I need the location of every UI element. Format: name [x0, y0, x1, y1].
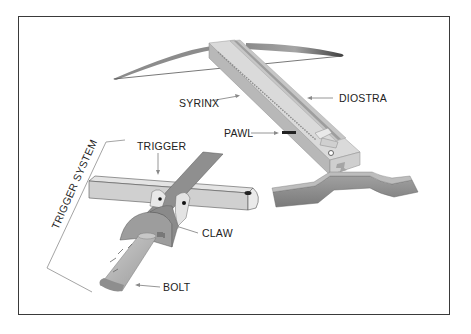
bolt	[100, 233, 157, 291]
label-claw: CLAW	[202, 227, 233, 239]
stock	[209, 40, 360, 175]
label-syrinx: SYRINX	[179, 97, 219, 109]
diagram-canvas: SYRINX DIOSTRA PAWL TRIGGER CLAW BOLT TR…	[0, 0, 471, 334]
stomach-rest	[272, 172, 418, 207]
crossbow-diagram: SYRINX DIOSTRA PAWL TRIGGER CLAW BOLT TR…	[0, 0, 471, 334]
label-bolt: BOLT	[163, 281, 191, 293]
label-diostra: DIOSTRA	[339, 92, 387, 104]
pawl-piece	[282, 131, 296, 134]
label-trigger: TRIGGER	[137, 140, 186, 152]
label-pawl: PAWL	[224, 127, 253, 139]
